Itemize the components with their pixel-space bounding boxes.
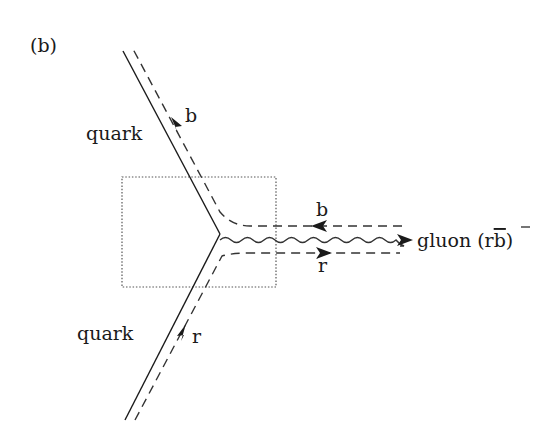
red-color-flow-line: [135, 253, 400, 420]
panel-label: (b): [30, 34, 57, 56]
gluon-upper-color-label: b: [316, 198, 328, 220]
lower-quark-line: [125, 234, 220, 420]
gluon-wavy-line: [220, 238, 404, 247]
lower-quark-label: quark: [77, 322, 134, 344]
gluon-arrow-icon: [397, 234, 413, 246]
upper-quark-label: quark: [86, 122, 143, 144]
lower-color-label: r: [192, 325, 202, 347]
blue-color-flow-line: [133, 49, 402, 226]
gluon-label: gluon (rb): [417, 229, 513, 251]
anti-blue-label: b: [494, 229, 506, 251]
upper-color-label: b: [185, 104, 197, 126]
feynman-diagram: (b) quark b quark r b r gluon (rb): [0, 0, 544, 444]
gluon-lower-color-label: r: [318, 254, 328, 276]
